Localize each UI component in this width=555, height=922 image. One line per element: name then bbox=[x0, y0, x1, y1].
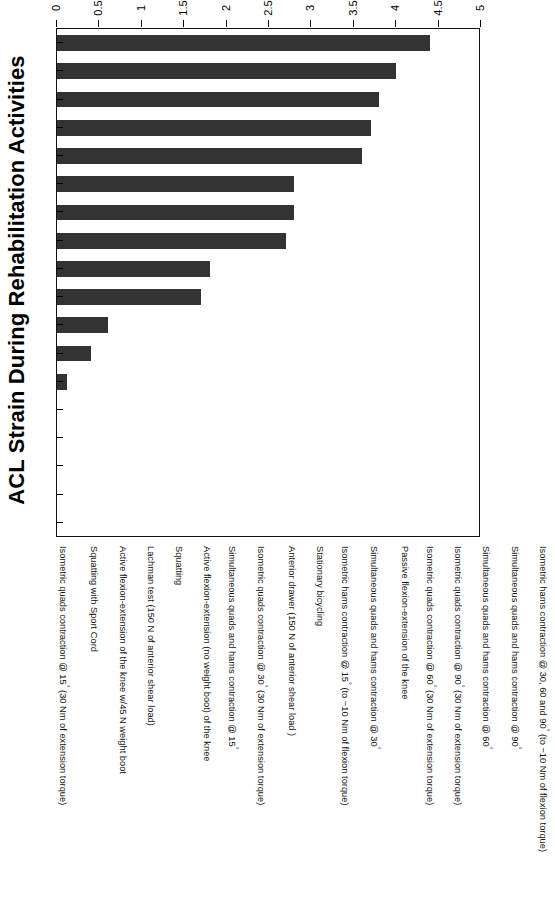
bar bbox=[57, 63, 396, 79]
bar bbox=[57, 92, 379, 108]
category-axis-tick bbox=[56, 42, 63, 43]
bar bbox=[57, 148, 362, 164]
category-axis-labels: Isometric quads contraction @ 15° (30 Nm… bbox=[56, 546, 480, 922]
category-axis-tick bbox=[56, 99, 63, 100]
category-axis-label: Isometric hams contraction @ 15° (to −10… bbox=[339, 546, 357, 918]
value-axis-tick-label: 2 bbox=[220, 0, 232, 22]
category-axis-label: Simultaneous quads and hams contraction … bbox=[480, 546, 498, 918]
category-axis-tick bbox=[56, 70, 63, 71]
value-axis-tick-label: 1 bbox=[135, 0, 147, 22]
value-axis-tick-label: 4 bbox=[389, 0, 401, 22]
category-axis-tick bbox=[56, 127, 63, 128]
category-axis-tick bbox=[56, 409, 63, 410]
value-axis-tick-label: 3.5 bbox=[347, 0, 359, 22]
category-axis-tick bbox=[56, 465, 63, 466]
bar bbox=[57, 261, 210, 277]
category-axis-tick bbox=[56, 437, 63, 438]
category-axis-tick bbox=[56, 522, 63, 523]
category-axis-label: Squatting bbox=[170, 546, 188, 918]
value-axis-tick-label: 0.5 bbox=[92, 0, 104, 22]
category-axis-tick bbox=[56, 155, 63, 156]
chart-title: ACL Strain During Rehabilitation Activit… bbox=[0, 0, 34, 560]
category-axis-label: Isometric quads contraction @ 15° (30 Nm… bbox=[57, 546, 75, 918]
value-axis-tick-label: 2.5 bbox=[262, 0, 274, 22]
category-axis-label: Isometric hams contraction @ 30, 60 and … bbox=[537, 546, 555, 918]
bar bbox=[57, 35, 430, 51]
category-axis-tick bbox=[56, 494, 63, 495]
bar bbox=[57, 317, 108, 333]
bar bbox=[57, 233, 286, 249]
category-axis-tick bbox=[56, 353, 63, 354]
bar bbox=[57, 289, 201, 305]
category-axis-tick bbox=[56, 268, 63, 269]
category-axis-tick bbox=[56, 183, 63, 184]
category-axis-label: Simultaneous quads and hams contraction … bbox=[368, 546, 386, 918]
category-axis-label: Simultaneous quads and hams contraction … bbox=[509, 546, 527, 918]
value-axis-tick-label: 1.5 bbox=[177, 0, 189, 22]
category-axis-tick bbox=[56, 296, 63, 297]
category-axis-tick bbox=[56, 381, 63, 382]
value-axis-tick-label: 3 bbox=[304, 0, 316, 22]
category-axis-tick bbox=[56, 324, 63, 325]
category-axis-label: Isometric quads contraction @ 60° (30 Nm… bbox=[424, 546, 442, 918]
category-axis-label: Anterior drawer (150 N of anterior shear… bbox=[283, 546, 301, 918]
category-axis-label: Passive flexion-extension of the knee bbox=[396, 546, 414, 918]
value-axis-tick-label: 5 bbox=[474, 0, 486, 22]
category-axis-label: Squatting with Sport Cord bbox=[85, 546, 103, 918]
value-axis-tick-label: 4.5 bbox=[432, 0, 444, 22]
category-axis-line bbox=[56, 536, 480, 537]
category-axis-label: Active flexion-extension (no weight boot… bbox=[198, 546, 216, 918]
bar bbox=[57, 374, 67, 390]
bar bbox=[57, 120, 371, 136]
bar bbox=[57, 176, 294, 192]
category-axis-label: Simultaneous quads and hams contraction … bbox=[226, 546, 244, 918]
category-axis-tick bbox=[56, 240, 63, 241]
category-axis-label: Lachman test (150 N of anterior shear lo… bbox=[142, 546, 160, 918]
category-axis-label: Stationary bicycling bbox=[311, 546, 329, 918]
value-axis: 00.511.522.533.544.55 bbox=[56, 2, 480, 28]
category-axis-label: Isometric quads contraction @ 30° (30 Nm… bbox=[255, 546, 273, 918]
plot-area bbox=[56, 28, 480, 536]
category-axis-tick bbox=[56, 211, 63, 212]
category-axis-label: Active flexion-extension of the knee w/4… bbox=[114, 546, 132, 918]
category-axis-label: Isometric quads contraction @ 90° (30 Nm… bbox=[452, 546, 470, 918]
bar bbox=[57, 205, 294, 221]
value-axis-tick-label: 0 bbox=[50, 0, 62, 22]
